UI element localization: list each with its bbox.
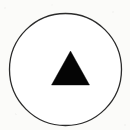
triangle-in-circle-icon: Triangle in circle symbol [0, 0, 130, 130]
icon-canvas: Triangle in circle symbol [0, 0, 130, 130]
